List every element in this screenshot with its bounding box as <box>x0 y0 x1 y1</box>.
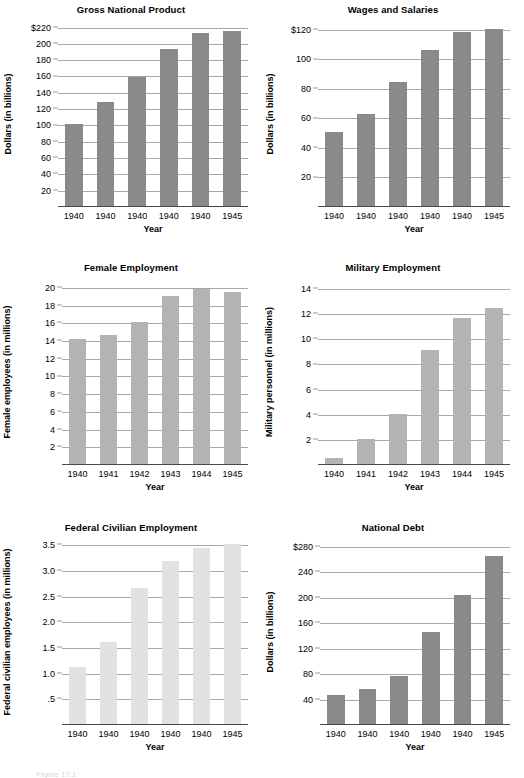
x-tick-label: 1942 <box>382 466 414 480</box>
x-tick-label: 1944 <box>446 466 478 480</box>
bar-slot <box>93 279 124 464</box>
chart-title: National Debt <box>262 522 524 539</box>
y-tick-label: 20 <box>301 173 318 182</box>
x-axis-title: Year <box>62 742 248 753</box>
y-tick-label: 160 <box>36 72 58 81</box>
y-tick-text: 8 <box>306 359 311 369</box>
y-tick-label: 1.5 <box>42 643 62 652</box>
bar <box>485 556 503 724</box>
y-tick-text: 14 <box>301 284 311 294</box>
x-axis-ticks: 194019401940194019401945 <box>318 208 510 222</box>
x-tick-label: 1940 <box>352 726 384 740</box>
bar-slot <box>62 279 93 464</box>
x-tick-label: 1945 <box>478 466 510 480</box>
y-tick-text: .5 <box>47 694 55 704</box>
plot-area <box>318 279 510 465</box>
plot-area-wrapper: Dollars (in billions)2040608010012014016… <box>0 21 262 207</box>
bar <box>327 695 345 724</box>
bar <box>224 292 241 464</box>
bar-slot <box>383 539 415 724</box>
y-tick-text: 2.5 <box>42 591 55 601</box>
bar <box>359 689 377 724</box>
x-tick-label: 1943 <box>414 466 446 480</box>
y-tick-label: 160 <box>298 619 320 628</box>
x-tick-label: 1940 <box>153 208 185 222</box>
y-tick-label: 100 <box>36 121 58 130</box>
bar-slot <box>153 21 185 206</box>
y-tick-label: 200 <box>298 593 320 602</box>
y-tick-text: 14 <box>45 336 55 346</box>
bar-slot <box>318 279 350 464</box>
bar <box>193 548 210 724</box>
y-tick-text: 80 <box>303 669 313 679</box>
y-tick-label: 40 <box>301 143 318 152</box>
y-tick-text: 140 <box>36 87 51 97</box>
chart-title: Federal Civilian Employment <box>0 522 262 539</box>
bars-layer <box>320 539 510 724</box>
bar <box>97 102 115 206</box>
y-axis-title: Female employees (in millions) <box>0 279 14 465</box>
y-tick-text: 10 <box>301 334 311 344</box>
y-tick-label: 180 <box>36 56 58 65</box>
y-axis-ticks: 20406080100$120 <box>280 21 318 207</box>
y-tick-text: 2 <box>306 434 311 444</box>
bar <box>357 114 375 206</box>
y-tick-label: 80 <box>301 84 318 93</box>
bar <box>325 458 343 464</box>
bar <box>100 335 117 464</box>
bar <box>453 318 471 464</box>
y-tick-text: 3.0 <box>42 565 55 575</box>
bar <box>162 561 179 724</box>
y-axis-title: Military personnel (in millions) <box>262 279 276 465</box>
y-tick-label: 80 <box>41 137 58 146</box>
x-tick-label: 1945 <box>217 466 248 480</box>
bar-slot <box>121 21 153 206</box>
x-axis-title: Year <box>318 482 510 493</box>
y-tick-label: 14 <box>45 337 62 346</box>
y-tick-label: 10 <box>45 372 62 381</box>
y-tick-text: 200 <box>36 38 51 48</box>
bar-slot <box>446 21 478 206</box>
y-tick-text: $220 <box>31 22 51 32</box>
y-tick-label: 1.0 <box>42 669 62 678</box>
x-tick-label: 1941 <box>350 466 382 480</box>
chart-panel-federal-civilian-employment: Federal Civilian EmploymentFederal civil… <box>0 522 262 725</box>
x-tick-label: 1943 <box>155 466 186 480</box>
x-tick-label: 1940 <box>155 726 186 740</box>
x-axis-ticks: 194019401940194019401945 <box>58 208 248 222</box>
bar-slot <box>382 279 414 464</box>
x-axis-title: Year <box>318 224 510 235</box>
bar-slot <box>478 279 510 464</box>
y-tick-text: 4 <box>50 424 55 434</box>
bar-slot <box>415 539 447 724</box>
bar <box>485 29 503 206</box>
plot-area <box>320 539 510 725</box>
bars-layer <box>62 279 248 464</box>
x-tick-label: 1941 <box>93 466 124 480</box>
bar <box>160 49 178 206</box>
x-tick-label: 1940 <box>62 726 93 740</box>
x-tick-label: 1940 <box>186 726 217 740</box>
bar <box>223 31 241 206</box>
bar-slot <box>320 539 352 724</box>
plot-area-wrapper: Federal civilian employees (in millions)… <box>0 539 262 725</box>
bar <box>192 33 210 206</box>
y-tick-text: 18 <box>45 300 55 310</box>
y-tick-label: 3.5 <box>42 541 62 550</box>
bar-slot <box>217 279 248 464</box>
chart-panel-female-employment: Female EmploymentFemale employees (in mi… <box>0 262 262 465</box>
bar-slot <box>185 21 217 206</box>
x-tick-label: 1945 <box>217 726 248 740</box>
bar-slot <box>155 539 186 724</box>
y-axis-title: Dollars (in billions) <box>0 21 14 207</box>
bar-slot <box>217 539 248 724</box>
x-tick-label: 1940 <box>447 726 479 740</box>
x-tick-label: 1942 <box>124 466 155 480</box>
y-tick-text: 3.5 <box>42 540 55 550</box>
x-tick-label: 1945 <box>216 208 248 222</box>
bar-slot <box>155 279 186 464</box>
y-tick-label: 10 <box>301 335 318 344</box>
x-tick-label: 1940 <box>446 208 478 222</box>
bar-slot <box>318 21 350 206</box>
x-axis-ticks: 194019401940194019401945 <box>320 726 510 740</box>
